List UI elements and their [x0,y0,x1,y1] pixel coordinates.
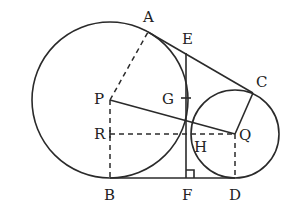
label-a: A [142,8,154,26]
label-g: G [162,90,174,108]
label-h: H [194,138,207,156]
label-r: R [94,125,106,143]
label-p: P [94,90,104,108]
geometry-diagram: A B C D E F G H P Q R [0,0,292,221]
tangent-line-ac [148,32,253,93]
diagram-canvas: A B C D E F G H P Q R [0,0,292,221]
label-c: C [256,73,267,91]
radius-pa-dashed [110,32,148,100]
label-f: F [182,186,192,204]
label-q: Q [239,126,251,144]
label-b: B [104,186,115,204]
right-angle-marker [186,170,194,178]
label-e: E [182,30,193,48]
label-d: D [229,186,241,204]
